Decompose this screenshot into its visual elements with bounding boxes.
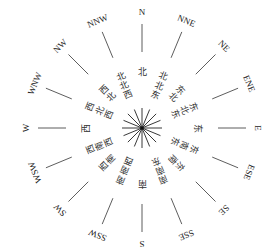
cn-label-e: 东 [193,124,204,133]
en-label-ene: ENE [241,74,257,94]
en-label-wsw: WSW [26,160,44,185]
direction-line-sse [171,198,182,224]
en-label-nne: NNE [176,13,197,30]
en-label-nnw: NNW [86,12,110,30]
direction-line-nw [68,54,88,74]
spoke-sw [128,128,142,142]
direction-line-ne [196,54,216,74]
en-label-sw: SW [51,201,68,218]
cn-label-wnw: 西 [102,108,115,120]
cn-label-s: 南 [138,179,147,190]
en-label-s: S [139,239,144,249]
direction-line-wsw [46,157,72,168]
en-label-wnw: WNW [26,70,44,96]
en-label-ssw: SSW [87,227,108,244]
spoke-se [142,128,156,142]
en-label-se: SE [216,203,231,218]
direction-line-se [196,182,216,202]
en-label-e: E [253,125,263,131]
en-label-nw: NW [51,37,69,55]
cn-label-n: 北 [138,67,147,77]
en-label-n: N [139,7,146,17]
direction-line-ssw [102,198,113,224]
center-point [140,126,143,129]
cn-label-wsw: 西 [102,136,115,148]
direction-line-wnw [46,88,72,99]
en-label-sse: SSE [177,228,196,243]
direction-line-sw [68,182,88,202]
cn-label-w: 西 [81,124,91,133]
direction-line-nne [171,32,182,58]
en-label-ne: NE [216,38,232,54]
cn-label-nnw: 西 [122,88,134,101]
en-label-w: W [21,123,31,132]
en-label-ese: ESE [241,163,257,182]
direction-line-ene [212,88,238,99]
spoke-nw [128,114,142,128]
direction-line-nnw [102,32,113,58]
wind-rose-diagram: 北北北东东北东北东东东南东东南南南东南南南西西南西南西西西北西西北北北西 NNN… [0,0,280,252]
spoke-ne [142,114,156,128]
cn-label-ssw: 西 [122,155,134,168]
direction-line-ese [212,157,238,168]
